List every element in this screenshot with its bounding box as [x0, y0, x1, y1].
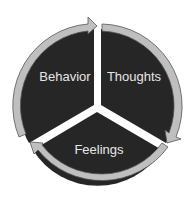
label-feelings: Feelings [74, 142, 124, 157]
label-thoughts: Thoughts [107, 69, 162, 84]
label-behavior: Behavior [39, 69, 91, 84]
cycle-diagram: Behavior Thoughts Feelings [0, 0, 195, 202]
